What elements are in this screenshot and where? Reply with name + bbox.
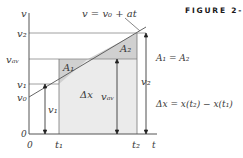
line-equation: v = v₀ + at <box>82 8 138 19</box>
area-equation: A₁ = A₂ <box>156 53 189 63</box>
y-tick-v0: v₀ <box>17 92 27 103</box>
x-axis-label: t <box>152 140 156 150</box>
v1-arrow-label: v₁ <box>48 104 58 115</box>
origin-x-label: 0 <box>27 140 33 150</box>
figure-label: FIGURE 2-21 <box>185 6 243 15</box>
equation-leader <box>125 18 140 31</box>
x-tick-t2: t₂ <box>132 139 140 150</box>
velocity-time-diagram: v t 0 0 v₂ vₐᵥ v₁ v₀ t₁ t₂ A₁ A₂ Δx v₁ v… <box>0 0 243 158</box>
v1-arrow-head-down <box>43 130 46 134</box>
a2-label: A₂ <box>119 43 131 54</box>
v2-arrow-head-up <box>144 33 147 37</box>
origin-y-label: 0 <box>21 129 27 139</box>
a1-label: A₁ <box>62 62 74 73</box>
y-tick-vav: vₐᵥ <box>6 54 19 65</box>
y-tick-v2: v₂ <box>17 28 27 39</box>
vav-arrow-label: vₐᵥ <box>101 91 114 102</box>
displacement-equation: Δx = x(t₂) − x(t₁) <box>156 99 233 109</box>
v1-arrow-head-up <box>43 84 46 88</box>
v2-arrow-head-down <box>144 130 147 134</box>
y-tick-v1: v₁ <box>17 79 27 90</box>
v2-arrow-label: v₂ <box>141 76 151 87</box>
delta-x-label: Δx <box>79 89 93 100</box>
y-axis-label: v <box>21 8 27 19</box>
x-tick-t1: t₁ <box>55 139 63 150</box>
